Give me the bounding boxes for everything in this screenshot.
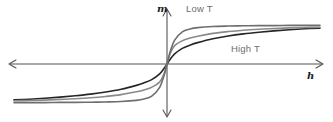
magnetization-vs-field-figure: m h Low T High T (0, 0, 333, 122)
curve-label-high-t: High T (231, 44, 260, 54)
magnetization-axis-label: m (157, 4, 168, 14)
field-axis-label: h (307, 71, 314, 81)
curve-label-low-t: Low T (186, 4, 213, 14)
plot-canvas (0, 0, 333, 122)
